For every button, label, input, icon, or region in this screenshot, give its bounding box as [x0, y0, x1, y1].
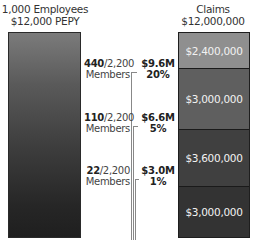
amount-value: $9.6M — [138, 58, 178, 69]
members-count: 440 — [84, 58, 104, 69]
claims-bar: $2,400,000 $3,000,000 $3,600,000 $3,000,… — [178, 32, 250, 238]
percent-value: 5% — [138, 123, 178, 134]
members-label: Members — [84, 69, 130, 80]
tier-3-members: 22/2,200 Members — [84, 165, 130, 187]
members-count: 22 — [86, 165, 99, 176]
employees-bar — [8, 32, 81, 238]
tier-3-amount: $3.0M 1% — [138, 165, 178, 187]
amount-value: $3.0M — [138, 165, 178, 176]
connector-line-2 — [133, 126, 134, 240]
members-label: Members — [84, 176, 130, 187]
connector-line-3 — [135, 179, 136, 240]
amount-value: $6.6M — [138, 112, 178, 123]
tier-1-members: 440/2,200 Members — [84, 58, 130, 80]
tier-2-members: 110/2,200 Members — [84, 112, 130, 134]
members-label: Members — [84, 123, 130, 134]
claims-segment-4: $3,000,000 — [179, 187, 249, 237]
tier-2-amount: $6.6M 5% — [138, 112, 178, 134]
members-total: /2,200 — [100, 165, 130, 176]
members-count: 110 — [84, 112, 104, 123]
connector-tick-1 — [131, 72, 137, 73]
percent-value: 1% — [138, 176, 178, 187]
claims-total: $12,000,000 — [168, 15, 256, 27]
members-total: /2,200 — [104, 112, 134, 123]
claims-header: Claims $12,000,000 — [168, 3, 256, 27]
segment-label: $3,000,000 — [185, 206, 242, 218]
claims-segment-2: $3,000,000 — [179, 69, 249, 130]
claims-title: Claims — [168, 3, 256, 15]
segment-label: $2,400,000 — [185, 45, 242, 57]
percent-value: 20% — [138, 69, 178, 80]
segment-label: $3,600,000 — [185, 152, 242, 164]
claims-segment-3: $3,600,000 — [179, 130, 249, 187]
employees-header: 1,000 Employees $12,000 PEPY — [0, 3, 90, 27]
connector-line-1 — [131, 72, 132, 240]
segment-label: $3,000,000 — [185, 93, 242, 105]
tier-1-amount: $9.6M 20% — [138, 58, 178, 80]
pepy-value: $12,000 PEPY — [0, 15, 90, 27]
claims-segment-1: $2,400,000 — [179, 33, 249, 69]
members-total: /2,200 — [104, 58, 134, 69]
employees-count: 1,000 Employees — [0, 3, 90, 15]
